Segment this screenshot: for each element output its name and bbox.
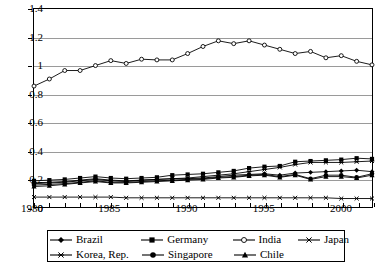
data-point xyxy=(309,49,313,53)
x-axis-label: 1985 xyxy=(98,203,120,214)
legend-label: Korea, Rep. xyxy=(74,249,129,260)
data-point xyxy=(216,39,220,43)
data-point xyxy=(324,56,328,60)
data-point xyxy=(93,64,97,68)
data-point xyxy=(354,160,359,164)
data-point xyxy=(232,42,236,46)
legend-item-india[interactable]: India xyxy=(231,234,296,246)
series-india xyxy=(32,39,374,88)
data-point xyxy=(170,58,174,62)
legend-marker-circle-open-icon xyxy=(231,234,257,246)
data-point xyxy=(78,69,82,73)
chart-legend: BrazilGermanyIndiaJapanKorea, Rep.Singap… xyxy=(47,230,345,262)
data-point xyxy=(186,52,190,56)
legend-item-chile[interactable]: Chile xyxy=(232,249,298,261)
legend-marker-asterisk-icon xyxy=(48,249,74,261)
legend-row: BrazilGermanyIndiaJapan xyxy=(48,232,344,247)
legend-row: Korea, Rep.SingaporeChile xyxy=(48,247,344,262)
y-axis-label: 0.4 xyxy=(11,146,43,157)
legend-label: India xyxy=(257,234,282,245)
legend-marker-circle-icon xyxy=(140,249,166,261)
legend-item-brazil[interactable]: Brazil xyxy=(48,234,139,246)
legend-item-japan[interactable]: Japan xyxy=(296,234,344,246)
y-axis-label: 0.2 xyxy=(11,174,43,185)
data-point xyxy=(354,168,359,173)
data-point xyxy=(370,63,374,67)
data-point xyxy=(339,168,344,173)
y-axis-label: 1.2 xyxy=(11,32,43,43)
x-axis-label: 1995 xyxy=(253,203,275,214)
legend-item-germany[interactable]: Germany xyxy=(139,234,230,246)
x-axis-label: 2000 xyxy=(330,203,352,214)
x-axis-label: 1990 xyxy=(176,203,198,214)
legend-item-korea-rep[interactable]: Korea, Rep. xyxy=(48,249,140,261)
y-axis-label: 1 xyxy=(11,60,43,71)
data-point xyxy=(308,170,313,175)
series-japan xyxy=(32,195,374,200)
legend-marker-x-icon xyxy=(296,234,322,246)
data-point xyxy=(201,44,205,48)
x-axis-tick xyxy=(374,203,375,207)
x-axis-label: 1980 xyxy=(21,203,43,214)
y-axis-label: 0.6 xyxy=(11,117,43,128)
legend-label: Japan xyxy=(322,234,349,245)
series-layer xyxy=(34,9,372,207)
data-point xyxy=(140,57,144,61)
legend-marker-square-icon xyxy=(139,234,165,246)
legend-label: Chile xyxy=(258,249,284,260)
data-point xyxy=(278,47,282,51)
data-point xyxy=(262,43,266,47)
legend-marker-triangle-icon xyxy=(232,249,258,261)
data-point xyxy=(339,54,343,58)
legend-label: Germany xyxy=(165,234,208,245)
legend-item-singapore[interactable]: Singapore xyxy=(140,249,232,261)
data-point xyxy=(155,58,159,62)
data-point xyxy=(124,61,128,65)
legend-marker-diamond-icon xyxy=(48,234,74,246)
chart-root: 00.20.40.60.811.21.4 1980198519901995200… xyxy=(0,0,380,267)
y-axis-label: 0.8 xyxy=(11,89,43,100)
legend-label: Singapore xyxy=(166,249,213,260)
data-point xyxy=(355,59,359,63)
data-point xyxy=(247,39,251,43)
data-point xyxy=(109,59,113,63)
data-point xyxy=(63,69,67,73)
plot-area xyxy=(33,8,373,208)
data-point xyxy=(47,77,51,81)
legend-label: Brazil xyxy=(74,234,103,245)
data-point xyxy=(293,52,297,56)
y-axis-label: 1.4 xyxy=(11,3,43,14)
